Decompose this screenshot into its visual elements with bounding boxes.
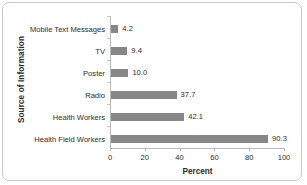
bar xyxy=(111,47,127,55)
bar xyxy=(111,69,128,77)
category-label: Mobile Text Messages xyxy=(17,25,105,34)
x-tick-mark xyxy=(110,148,111,151)
x-tick-mark xyxy=(249,148,250,151)
bar xyxy=(111,135,268,143)
bar-value-label: 4.2 xyxy=(122,25,133,33)
x-tick-mark xyxy=(284,148,285,151)
y-axis-line xyxy=(110,16,111,148)
x-tick-label: 60 xyxy=(199,153,229,162)
bar-value-label: 10.0 xyxy=(132,69,147,77)
category-label: Radio xyxy=(17,91,105,100)
x-tick-label: 20 xyxy=(130,153,160,162)
category-label: TV xyxy=(17,47,105,56)
x-tick-mark xyxy=(145,148,146,151)
x-tick-mark xyxy=(180,148,181,151)
x-axis-title: Percent xyxy=(110,167,285,176)
y-tick-mark xyxy=(107,38,110,39)
category-axis-labels: Mobile Text MessagesTVPosterRadioHealth … xyxy=(17,16,105,148)
bar xyxy=(111,113,184,121)
plot-area: 4.29.410.037.742.190.3 xyxy=(110,16,284,148)
bar xyxy=(111,25,118,33)
x-axis-line xyxy=(110,148,285,149)
bar-value-label: 90.3 xyxy=(272,135,287,143)
y-tick-mark xyxy=(107,60,110,61)
y-tick-mark xyxy=(107,104,110,105)
bar xyxy=(111,91,177,99)
bar-value-label: 9.4 xyxy=(131,47,142,55)
x-tick-label: 0 xyxy=(95,153,125,162)
x-tick-label: 100 xyxy=(269,153,299,162)
chart-frame: Source of Information Mobile Text Messag… xyxy=(2,2,302,181)
y-tick-mark xyxy=(107,126,110,127)
category-label: Health Workers xyxy=(17,113,105,122)
category-label: Health Field Workers xyxy=(17,135,105,144)
bar-value-label: 37.7 xyxy=(181,91,196,99)
x-tick-label: 40 xyxy=(165,153,195,162)
x-tick-mark xyxy=(214,148,215,151)
bar-value-label: 42.1 xyxy=(188,113,203,121)
category-label: Poster xyxy=(17,69,105,78)
x-tick-label: 80 xyxy=(234,153,264,162)
y-tick-mark xyxy=(107,82,110,83)
y-tick-mark xyxy=(107,16,110,17)
